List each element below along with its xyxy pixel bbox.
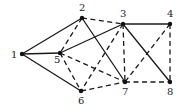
node-label-5: 5: [54, 54, 60, 65]
node-8: [168, 80, 172, 84]
node-4: [168, 22, 172, 26]
edge-3-7-dashed: [123, 24, 125, 82]
edge-6-7-dashed: [81, 82, 125, 91]
edge-5-6-dashed: [60, 53, 81, 91]
node-label-2: 2: [79, 2, 85, 13]
node-label-4: 4: [167, 8, 173, 19]
edges-group: [22, 18, 170, 91]
nodes-group: [20, 16, 172, 93]
edge-2-7-solid: [82, 18, 125, 82]
graph-diagram: 12345678: [0, 0, 183, 109]
node-6: [79, 89, 83, 93]
node-1: [20, 52, 24, 56]
node-label-6: 6: [78, 95, 84, 106]
node-3: [121, 22, 125, 26]
node-7: [123, 80, 127, 84]
node-label-1: 1: [11, 49, 17, 60]
node-label-7: 7: [122, 86, 128, 97]
node-2: [80, 16, 84, 20]
node-label-8: 8: [167, 86, 173, 97]
edge-2-3-dashed: [82, 18, 123, 24]
edge-1-6-solid: [22, 54, 81, 91]
node-label-3: 3: [120, 8, 126, 19]
edge-1-2-solid: [22, 18, 82, 54]
